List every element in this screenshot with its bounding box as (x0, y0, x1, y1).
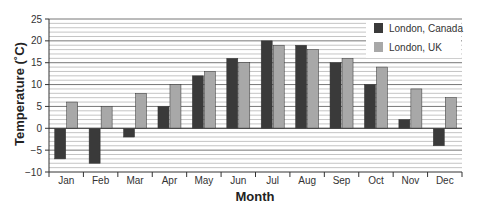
bar-uk-feb (101, 106, 112, 128)
bar-canada-apr (158, 106, 169, 128)
x-tick-label: Aug (298, 175, 316, 186)
legend-label: London, UK (389, 42, 442, 53)
bar-uk-jun (239, 63, 250, 129)
x-tick-label: Jan (58, 175, 74, 186)
bar-canada-nov (399, 120, 410, 129)
bar-canada-jun (227, 58, 238, 128)
bar-uk-jul (273, 45, 284, 128)
bar-canada-mar (124, 128, 135, 137)
legend: London, CanadaLondon, UK (366, 20, 463, 58)
x-tick-label: Sep (333, 175, 351, 186)
bar-canada-may (192, 76, 203, 128)
y-tick-label: −10 (25, 167, 42, 178)
bar-canada-dec (433, 128, 444, 145)
bar-uk-jan (67, 102, 78, 128)
y-tick-label: −5 (31, 145, 43, 156)
x-tick-label: Oct (368, 175, 384, 186)
temperature-bar-chart: JanFebMarAprMayJunJulAugSepOctNovDec−10−… (0, 0, 477, 207)
bar-uk-aug (308, 50, 319, 129)
bar-uk-sep (342, 58, 353, 128)
bar-canada-jan (55, 128, 66, 159)
y-tick-label: 0 (36, 123, 42, 134)
y-axis-label: Temperature (˚C) (12, 42, 27, 146)
bar-uk-mar (136, 93, 147, 128)
bar-uk-nov (411, 89, 422, 128)
x-tick-label: Nov (401, 175, 419, 186)
x-axis-label: Month (236, 189, 275, 204)
y-tick-label: 15 (31, 57, 43, 68)
legend-label: London, Canada (389, 23, 463, 34)
y-tick-label: 25 (31, 14, 43, 25)
bar-uk-apr (170, 85, 181, 129)
legend-swatch (374, 23, 383, 33)
x-tick-label: Dec (436, 175, 454, 186)
x-tick-label: Feb (92, 175, 110, 186)
x-tick-label: Mar (126, 175, 144, 186)
bar-uk-dec (445, 98, 456, 129)
y-tick-label: 5 (36, 101, 42, 112)
bar-canada-feb (89, 128, 100, 163)
bar-canada-oct (364, 85, 375, 129)
bar-canada-jul (261, 41, 272, 128)
x-tick-label: Apr (162, 175, 178, 186)
legend-swatch (374, 42, 383, 52)
bar-uk-oct (376, 67, 387, 128)
bar-canada-sep (330, 63, 341, 129)
bar-uk-may (204, 71, 215, 128)
x-tick-label: Jun (230, 175, 246, 186)
y-tick-label: 20 (31, 35, 43, 46)
x-tick-label: Jul (266, 175, 279, 186)
y-tick-label: 10 (31, 79, 43, 90)
bar-canada-aug (296, 45, 307, 128)
x-tick-label: May (194, 175, 213, 186)
